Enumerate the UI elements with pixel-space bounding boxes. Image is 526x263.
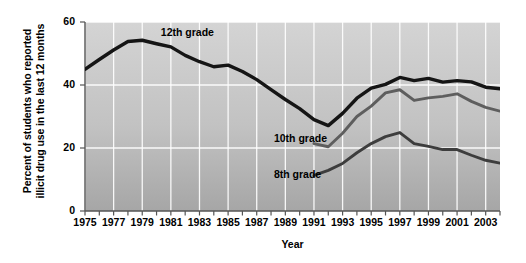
y-axis-title: Percent of students who reported illicit…	[21, 16, 47, 206]
series-label-10th-grade: 10th grade	[274, 132, 327, 144]
y-axis-title-line2: illicit drug use in the last 12 months	[34, 16, 47, 206]
x-tick-label-2003: 2003	[469, 216, 503, 228]
series-label-8th-grade: 8th grade	[274, 168, 321, 180]
y-tick-label-60: 60	[47, 15, 75, 27]
plot-background	[85, 22, 500, 211]
drug-use-line-chart: Percent of students who reported illicit…	[0, 0, 526, 263]
y-tick-label-20: 20	[47, 141, 75, 153]
x-axis-title: Year	[85, 238, 500, 250]
y-tick-label-0: 0	[47, 204, 75, 216]
series-label-12th-grade: 12th grade	[161, 26, 214, 38]
y-axis-title-line1: Percent of students who reported	[21, 16, 34, 206]
y-tick-label-40: 40	[47, 78, 75, 90]
